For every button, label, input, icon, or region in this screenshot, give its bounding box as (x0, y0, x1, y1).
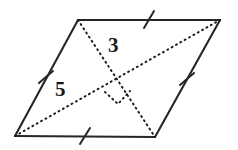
tick-left-icon (39, 71, 53, 83)
right-angle-marker (105, 91, 130, 104)
diagonal-length-label: 3 (108, 35, 119, 56)
tick-right-icon (180, 73, 194, 85)
side-length-label: 5 (55, 79, 66, 100)
geometry-canvas (0, 0, 238, 150)
right-angle-marker-icon (105, 91, 130, 104)
geometry-figure: 3 5 (0, 0, 238, 150)
